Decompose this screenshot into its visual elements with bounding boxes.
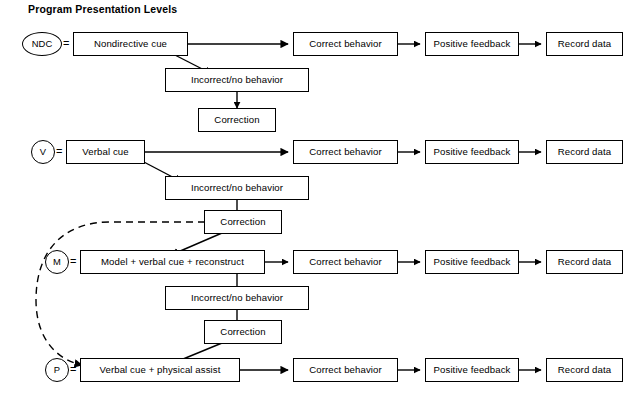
- correction-box-ndc: Correction: [198, 108, 276, 132]
- record-data-label-m: Record data: [558, 257, 611, 267]
- correction-box-m: Correction: [204, 320, 282, 344]
- correct-behavior-box-m: Correct behavior: [293, 250, 398, 274]
- correction-label-v: Correction: [220, 217, 265, 227]
- correction-box-v: Correction: [204, 210, 282, 234]
- level-code-m-label: M: [53, 257, 61, 266]
- positive-feedback-box-m: Positive feedback: [425, 250, 519, 274]
- positive-feedback-label-p: Positive feedback: [434, 365, 511, 375]
- cue-box-p: Verbal cue + physical assist: [80, 358, 240, 382]
- connector-layer: [0, 0, 638, 407]
- positive-feedback-label-v: Positive feedback: [434, 147, 511, 157]
- correction-label-m: Correction: [220, 327, 265, 337]
- incorrect-behavior-label-ndc: Incorrect/no behavior: [191, 75, 283, 85]
- cue-box-m-label: Model + verbal cue + reconstruct: [101, 257, 244, 267]
- cue-box-ndc: Nondirective cue: [73, 32, 188, 56]
- record-data-box-v: Record data: [546, 140, 623, 164]
- cue-box-v: Verbal cue: [66, 140, 145, 164]
- level-code-ndc-label: NDC: [32, 39, 53, 48]
- positive-feedback-label-m: Positive feedback: [434, 257, 511, 267]
- record-data-box-ndc: Record data: [546, 32, 623, 56]
- record-data-label-p: Record data: [558, 365, 611, 375]
- positive-feedback-box-ndc: Positive feedback: [425, 32, 519, 56]
- page-title: Program Presentation Levels: [28, 3, 177, 15]
- incorrect-behavior-box-m: Incorrect/no behavior: [165, 286, 309, 310]
- equals-sign-ndc: =: [63, 38, 69, 49]
- equals-sign-m: =: [70, 256, 76, 267]
- record-data-box-p: Record data: [546, 358, 623, 382]
- flowchart-canvas: Program Presentation Levels: [0, 0, 638, 407]
- record-data-label-ndc: Record data: [558, 39, 611, 49]
- incorrect-behavior-label-m: Incorrect/no behavior: [191, 293, 283, 303]
- level-code-m: M: [45, 250, 69, 274]
- cue-box-ndc-label: Nondirective cue: [94, 39, 167, 49]
- record-data-box-m: Record data: [546, 250, 623, 274]
- positive-feedback-box-v: Positive feedback: [425, 140, 519, 164]
- level-code-p: P: [45, 358, 69, 382]
- positive-feedback-box-p: Positive feedback: [425, 358, 519, 382]
- incorrect-behavior-box-ndc: Incorrect/no behavior: [165, 68, 309, 92]
- cue-box-v-label: Verbal cue: [82, 147, 128, 157]
- correct-behavior-box-v: Correct behavior: [293, 140, 398, 164]
- incorrect-behavior-box-v: Incorrect/no behavior: [165, 176, 309, 200]
- cue-box-m: Model + verbal cue + reconstruct: [80, 250, 265, 274]
- correct-behavior-label-ndc: Correct behavior: [309, 39, 382, 49]
- level-code-v: V: [31, 140, 55, 164]
- level-code-p-label: P: [54, 365, 60, 374]
- correct-behavior-label-v: Correct behavior: [309, 147, 382, 157]
- incorrect-behavior-label-v: Incorrect/no behavior: [191, 183, 283, 193]
- positive-feedback-label-ndc: Positive feedback: [434, 39, 511, 49]
- record-data-label-v: Record data: [558, 147, 611, 157]
- correct-behavior-box-ndc: Correct behavior: [293, 32, 398, 56]
- level-code-ndc: NDC: [22, 32, 62, 56]
- correction-label-ndc: Correction: [214, 115, 259, 125]
- equals-sign-v: =: [56, 146, 62, 157]
- equals-sign-p: =: [70, 364, 76, 375]
- correct-behavior-label-p: Correct behavior: [309, 365, 382, 375]
- correct-behavior-box-p: Correct behavior: [293, 358, 398, 382]
- correct-behavior-label-m: Correct behavior: [309, 257, 382, 267]
- cue-box-p-label: Verbal cue + physical assist: [100, 365, 221, 375]
- level-code-v-label: V: [40, 147, 46, 156]
